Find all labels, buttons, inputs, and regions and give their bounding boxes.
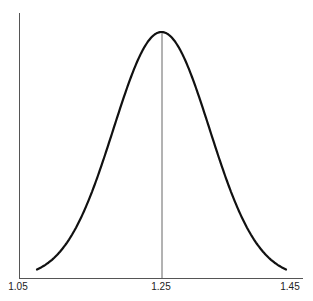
x-tick-label: 1.05 bbox=[8, 281, 27, 292]
x-tick-label: 1.45 bbox=[280, 281, 299, 292]
bell-curve-chart bbox=[0, 0, 313, 301]
x-tick-label: 1.25 bbox=[151, 281, 170, 292]
